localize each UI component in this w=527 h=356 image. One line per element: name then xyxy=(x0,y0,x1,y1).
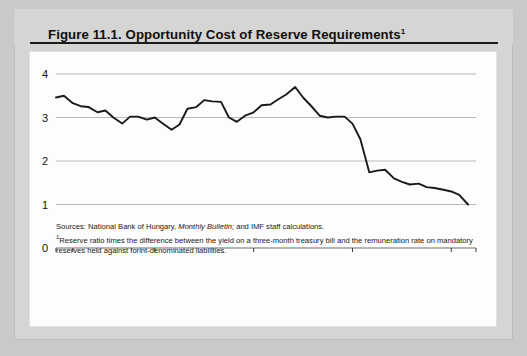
figure-title-text: Figure 11.1. Opportunity Cost of Reserve… xyxy=(48,27,401,42)
title-divider xyxy=(30,42,498,44)
y-tick-label: 1 xyxy=(42,199,48,211)
page-title: Figure 11.1. Opportunity Cost of Reserve… xyxy=(48,27,405,42)
y-tick-label: 4 xyxy=(42,68,48,80)
y-tick-label: 2 xyxy=(42,155,48,167)
sources-label: Sources: xyxy=(56,222,86,231)
sources-text-b: and IMF staff calculations. xyxy=(236,222,324,231)
data-series-line xyxy=(56,87,468,204)
figure-panel: 01234 199394959697 Sources: National Ban… xyxy=(30,52,496,326)
y-tick-label: 3 xyxy=(42,112,48,124)
y-axis-tick-labels: 01234 xyxy=(42,68,48,252)
footnote-line: 1Reserve ratio times the difference betw… xyxy=(56,232,480,256)
line-chart: 01234 199394959697 xyxy=(30,52,496,326)
y-tick-label: 0 xyxy=(42,242,48,252)
footnote-text: Reserve ratio times the difference betwe… xyxy=(56,236,473,255)
figure-notes: Sources: National Bank of Hungary, Month… xyxy=(56,222,480,257)
sources-text-a: National Bank of Hungary, xyxy=(88,222,176,231)
screenshot-root: Figure 11.1. Opportunity Cost of Reserve… xyxy=(0,0,527,356)
sources-italic: Monthly Bulletin; xyxy=(178,222,234,231)
figure-title-superscript: 1 xyxy=(401,27,406,36)
figure-title-bar: Figure 11.1. Opportunity Cost of Reserve… xyxy=(14,9,513,45)
sources-line: Sources: National Bank of Hungary, Month… xyxy=(56,222,480,232)
